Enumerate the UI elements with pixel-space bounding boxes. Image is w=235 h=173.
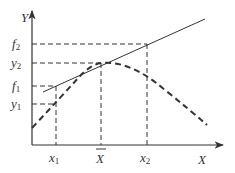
diagram-canvas: Y X f2 y2 f1 y1 x1 X x2: [0, 0, 235, 173]
x2-label: x2: [139, 150, 150, 166]
x1-label: x1: [48, 150, 59, 166]
f1-label: f1: [12, 78, 20, 94]
x-axis-label: X: [197, 152, 207, 167]
y-axis-label: Y: [21, 10, 30, 25]
tangent-line: [43, 19, 205, 92]
concave-function-curve: [32, 63, 207, 128]
f2-label: f2: [12, 36, 20, 52]
xbar-label: X: [95, 151, 105, 166]
y2-label: y2: [9, 55, 21, 71]
y1-label: y1: [9, 96, 21, 112]
